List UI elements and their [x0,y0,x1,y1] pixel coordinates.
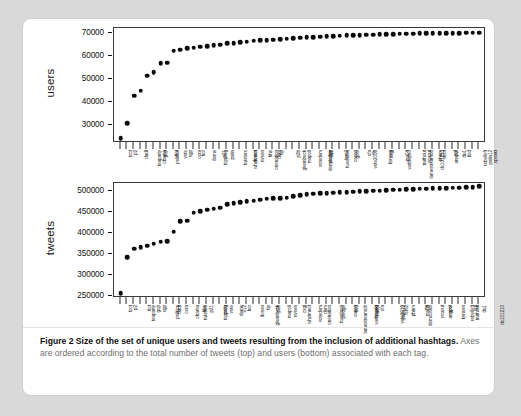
tweets-x-tick-label: 912 [242,305,247,313]
tweets-x-tick-label: onenation [327,305,332,325]
data-point [205,207,210,212]
tweets-x-tick [318,297,319,304]
users-x-tick [338,142,339,149]
data-point [264,197,269,202]
tweets-x-tick-label: sgf [473,305,478,311]
tweets-x-tick-label: ocra [183,305,188,314]
tweets-x-tick [312,297,313,304]
data-point [470,31,475,36]
tweets-x-tick [431,297,432,304]
data-point [152,241,157,246]
tweets-x-tick [478,297,479,304]
tweets-x-tick-label: whyimnot [307,305,312,324]
tweets-x-tick-label: ofa [380,305,385,311]
data-point [464,31,469,36]
users-y-tick-mark [108,78,112,79]
data-point [477,184,482,189]
data-point [152,70,157,75]
data-point [431,31,436,36]
data-point [218,42,223,47]
users-x-tick [285,142,286,149]
tweets-x-tick [279,297,280,304]
users-x-tick [465,142,466,149]
data-point [318,191,323,196]
data-point [318,34,323,39]
users-y-tick-label: 70000 [82,27,104,36]
data-point [225,202,230,207]
data-point [371,32,376,37]
tweets-x-tick [292,297,293,304]
users-x-tick [325,142,326,149]
tweets-x-tick [166,297,167,304]
users-x-tick [279,142,280,149]
users-x-tick-label: glennbeck [301,150,306,171]
tweets-x-tick-label: kynsen [461,305,466,319]
tweets-x-tick [285,297,286,304]
data-point [245,199,250,204]
data-point [450,31,455,36]
users-x-tick [212,142,213,149]
users-x-tick [305,142,306,149]
tweets-y-tick-label: 300000 [77,270,104,279]
users-x-tick [385,142,386,149]
data-point [331,34,336,39]
users-x-tick-label: votedem [318,150,323,167]
data-point [138,245,143,250]
tweets-x-tick-label: lamestreamob [363,305,368,334]
tweets-x-tick-label: csgj [302,305,307,313]
users-x-tick [126,142,127,149]
users-x-tick-label: ffs [372,150,377,155]
tweets-x-tick [398,297,399,304]
tweets-x-tick-label: hhs [202,305,207,312]
users-x-tick [172,142,173,149]
data-point [417,187,422,192]
users-x-tick [425,142,426,149]
users-y-tick-label: 40000 [82,96,104,105]
users-x-tick [206,142,207,149]
users-x-tick [219,142,220,149]
tweets-x-tick [225,297,226,304]
tweets-x-tick [445,297,446,304]
data-point [211,206,216,211]
tweets-y-axis-label: tweets [44,202,56,274]
tweets-y-tick-mark [108,253,112,254]
data-point [397,187,402,192]
users-y-tick-mark [108,124,112,125]
tweets-x-tick [239,297,240,304]
users-x-tick-label: rebelleft [483,150,488,166]
data-point [178,47,183,52]
users-x-tick [405,142,406,149]
data-point [311,35,316,40]
users-x-tick [458,142,459,149]
tweets-x-tick-label: gop [156,305,161,313]
users-x-tick-label: p2 [133,150,138,155]
users-y-tick-mark [108,32,112,33]
users-x-tick [159,142,160,149]
tweets-x-tick-label: pledge [341,305,346,319]
data-point [351,33,356,38]
users-x-tick [152,142,153,149]
users-x-tick [445,142,446,149]
data-point [258,38,263,43]
users-x-tick-label: ucot [442,150,447,158]
data-point [198,209,203,214]
figure-caption: Figure 2 Size of the set of unique users… [40,335,480,359]
users-x-tick [345,142,346,149]
data-point [171,229,176,234]
users-data-points [114,28,484,141]
tweets-y-tick-label: 250000 [77,290,104,299]
data-point [424,186,429,191]
data-point [384,188,389,193]
data-point [278,196,283,201]
tweets-y-tick-mark [108,274,112,275]
tweets-x-tick [465,297,466,304]
users-x-tick [259,142,260,149]
tweets-x-tick-label: p2b [275,305,280,313]
data-point [404,187,409,192]
data-point [384,32,389,37]
users-x-tick [146,142,147,149]
data-point [245,39,250,44]
tweets-x-tick [252,297,253,304]
data-point [431,186,436,191]
data-point [271,196,276,201]
